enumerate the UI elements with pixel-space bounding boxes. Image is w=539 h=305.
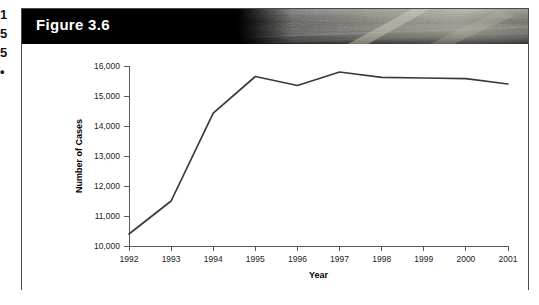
figure-header: Figure 3.6 [22,9,528,44]
y-tick-label: 15,000 [94,91,120,101]
y-axis-title: Number of Cases [74,119,84,193]
y-tick-label: 12,000 [94,181,120,191]
y-tick-label: 16,000 [94,61,120,71]
x-tick-label: 1995 [246,254,265,264]
header-fade-overlay [172,9,292,44]
x-tick-label: 1997 [330,254,349,264]
y-tick-label: 13,000 [94,151,120,161]
x-axis-title: Year [309,270,329,280]
line-chart: 10,00011,00012,00013,00014,00015,00016,0… [22,44,528,290]
figure-label: Figure 3.6 [36,16,110,33]
x-tick-label: 1996 [288,254,307,264]
margin-glyph: 5 [0,46,9,59]
x-tick-label: 1992 [120,254,139,264]
y-tick-label: 14,000 [94,121,120,131]
data-series-line [129,72,508,234]
figure-panel: Figure 3.6 10,00011,00012,00013,00014,00… [21,8,529,290]
page-margin-glyphs: 1 5 5 • [0,8,9,94]
x-tick-label: 1998 [372,254,391,264]
margin-glyph: 1 [0,8,9,21]
plot-area: 10,00011,00012,00013,00014,00015,00016,0… [22,44,528,290]
y-tick-label: 11,000 [95,211,121,221]
x-tick-label: 1999 [414,254,433,264]
x-tick-label: 2000 [456,254,475,264]
y-tick-label: 10,000 [94,241,120,251]
x-tick-label: 2001 [499,254,518,264]
margin-glyph: 5 [0,27,9,40]
x-tick-label: 1994 [204,254,223,264]
x-tick-label: 1993 [162,254,181,264]
margin-glyph: • [0,65,9,78]
